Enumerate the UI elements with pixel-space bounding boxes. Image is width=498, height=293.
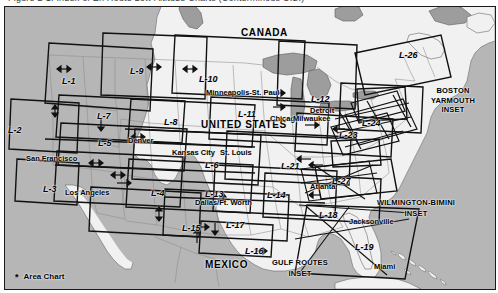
legend-area-chart-label: Area Chart [24,273,65,281]
chart-label-l-23[interactable]: L-23 [339,131,358,140]
chart-label-l-1[interactable]: L-1 [62,77,76,86]
chart-label-l-24[interactable]: L-24 [362,119,381,128]
city-label-minneapolis-st-paul: Minneapolis-St. Paul [206,89,279,97]
chart-label-l-18[interactable]: L-18 [319,211,338,220]
chart-label-l-9[interactable]: L-9 [130,67,144,76]
chart-label-l-17[interactable]: L-17 [226,221,245,230]
chart-label-l-8[interactable]: L-8 [164,118,178,127]
inset-label-gulf-routes: GULF ROUTES INSET [255,259,345,277]
inset-boston-line-3: INSET [416,106,490,114]
country-label-canada: CANADA [241,28,288,38]
chart-label-l-3[interactable]: L-3 [43,185,57,194]
inset-wilmington-line-1: WILMINGTON-BIMINI [357,199,475,207]
chart-label-l-26[interactable]: L-26 [399,51,418,60]
cutoff-caption-text: Figure 2-1. Index of En Route Low Altitu… [8,0,304,3]
chart-label-l-27[interactable]: L-27 [332,177,351,186]
city-label-los-angeles: Los Angeles [65,189,109,197]
chart-label-l-21[interactable]: L-21 [281,162,300,171]
chart-label-l-2[interactable]: L-2 [8,126,22,135]
city-label-jacksonville: Jacksonville [349,218,394,226]
inset-gulf-line-1: GULF ROUTES [255,259,345,267]
map-frame: CANADA UNITED STATES MEXICO Minneapolis-… [4,6,496,290]
inset-label-boston-yarmouth: BOSTON YARMOUTH INSET [416,87,490,114]
chart-label-l-10[interactable]: L-10 [199,75,218,84]
chart-label-l-7[interactable]: L-7 [97,112,111,121]
inset-gulf-line-2: INSET [255,270,345,278]
city-label-dallas-ft-worth: Dallas/Ft. Worth [195,199,252,207]
chart-label-l-6[interactable]: L-6 [205,161,219,170]
chart-label-l-5[interactable]: L-5 [98,139,112,148]
chart-label-l-14[interactable]: L-14 [267,191,286,200]
chart-label-l-15[interactable]: L-15 [182,224,201,233]
city-label-detroit: Detroit [310,107,334,115]
map-legend: * Area Chart [15,273,64,281]
city-label-miami: Miami [374,263,395,271]
country-label-mexico: MEXICO [205,260,248,270]
chart-label-l-19[interactable]: L-19 [355,243,374,252]
city-label-kansas-city: Kansas City [172,149,215,157]
inset-boston-line-2: YARMOUTH [416,97,490,105]
city-label-milwaukee: Milwaukee [293,115,331,123]
city-label-san-francisco: San Francisco [26,155,77,163]
chart-label-l-4[interactable]: L-4 [151,189,165,198]
city-label-st-louis: St. Louis [220,149,252,157]
chart-label-l-13[interactable]: L-13 [205,190,224,199]
inset-label-wilmington-bimini: WILMINGTON-BIMINI INSET [357,199,475,217]
chart-label-l-16[interactable]: L-16 [245,247,264,256]
city-label-denver: Denver [128,137,153,145]
inset-boston-line-1: BOSTON [416,87,490,95]
chart-label-l-11[interactable]: L-11 [238,110,256,119]
area-chart-marker-icon: * [15,273,19,281]
chart-label-l-12[interactable]: L-12 [311,95,330,104]
enroute-chart-index-screenshot: Figure 2-1. Index of En Route Low Altitu… [0,0,498,293]
cutoff-caption-strip: Figure 2-1. Index of En Route Low Altitu… [0,0,498,5]
inset-wilmington-line-2: INSET [357,210,475,218]
